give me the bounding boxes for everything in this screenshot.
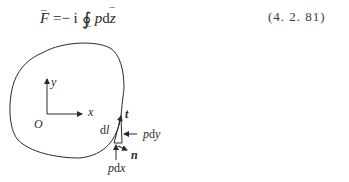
tangent-label: t: [125, 107, 129, 121]
normal-label: n: [131, 148, 138, 162]
x-axis-label: x: [87, 105, 94, 119]
pdx-label: pdx: [107, 161, 126, 175]
dl-label: dl: [100, 123, 110, 137]
origin-label: O: [34, 117, 43, 131]
y-axis-label: y: [50, 75, 57, 89]
element-triangle: [114, 117, 122, 143]
contour-curve: [10, 43, 124, 158]
contour-diagram: y x O t n pdy pdx dl: [0, 0, 349, 182]
pdy-label: pdy: [142, 127, 161, 141]
normal-arrow: [118, 146, 127, 150]
